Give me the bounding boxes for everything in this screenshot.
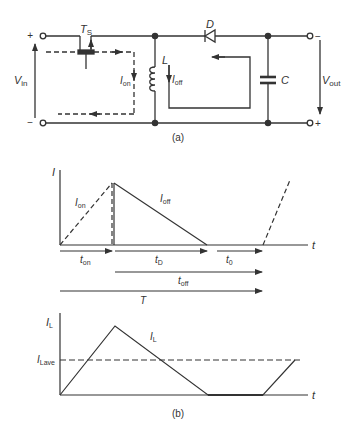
- x-axis-label: t: [312, 389, 316, 401]
- in-minus-label: −: [27, 117, 33, 128]
- td-label: tD: [155, 254, 163, 266]
- current-waveform-chart: [60, 170, 308, 291]
- circuit-labels: + − − + Vin Vout TS Ion Ioff L D C (a): [14, 18, 341, 143]
- diode-label: D: [206, 18, 214, 30]
- ion-ramp: [60, 183, 112, 245]
- diode-d-icon: [205, 30, 215, 42]
- terminal-out-minus: [307, 33, 313, 39]
- capacitor-label: C: [281, 74, 289, 86]
- il-curve-label: IL: [150, 331, 157, 343]
- inductor-current-chart: [60, 313, 308, 395]
- out-plus-label: +: [315, 118, 321, 129]
- vout-label: Vout: [322, 74, 341, 88]
- ton-label: ton: [80, 254, 91, 266]
- ion-curve-label: Ion: [75, 197, 86, 209]
- il-average-label: ILave: [37, 354, 55, 366]
- circuit-diagram: [35, 30, 320, 126]
- out-minus-label: −: [315, 31, 321, 42]
- terminal-in-plus: [40, 33, 46, 39]
- terminal-out-plus: [307, 120, 313, 126]
- ts-label: TS: [80, 23, 92, 37]
- caption-a: (a): [172, 132, 184, 143]
- buck-boost-figure: + − − + Vin Vout TS Ion Ioff L D C (a) I: [0, 0, 351, 429]
- y-axis-label: IL: [46, 316, 53, 329]
- ioff-curve-label: Ioff: [160, 193, 170, 205]
- inductor-current-labels: IL t IL ILave (b): [37, 316, 316, 419]
- x-axis-label: t: [312, 239, 316, 251]
- inductor-l-icon: [150, 36, 155, 123]
- ion-next-ramp: [263, 180, 290, 245]
- caption-b: (b): [172, 408, 184, 419]
- vin-label: Vin: [14, 74, 28, 88]
- terminal-in-minus: [40, 120, 46, 126]
- ion-label: Ion: [120, 75, 131, 87]
- inductor-label: L: [162, 54, 168, 66]
- ioff-label: Ioff: [172, 74, 182, 86]
- y-axis-label: I: [52, 166, 55, 178]
- t0-label: t0: [226, 254, 233, 266]
- capacitor-c-icon: [260, 36, 276, 123]
- current-waveform-labels: I t Ion Ioff ton tD t0 toff T: [52, 166, 316, 306]
- in-plus-label: +: [27, 30, 33, 41]
- period-label: T: [140, 295, 147, 306]
- toff-label: toff: [178, 275, 188, 287]
